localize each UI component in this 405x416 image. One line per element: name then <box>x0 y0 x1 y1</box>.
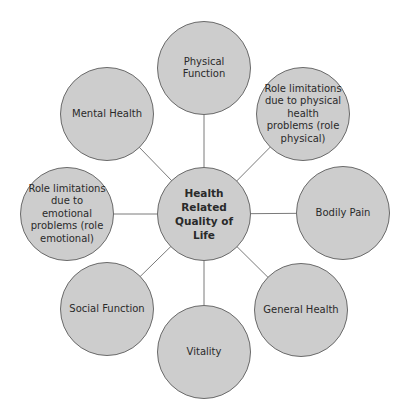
center-label: Health Related Quality of Life <box>164 186 244 242</box>
node-general-health: General Health <box>254 263 348 357</box>
node-role-emotional: Role limitations due to emotional proble… <box>20 167 114 261</box>
node-bodily-pain: Bodily Pain <box>296 166 390 260</box>
node-physical-function: Physical Function <box>157 21 251 115</box>
node-label: Social Function <box>69 303 144 316</box>
node-social-function: Social Function <box>60 262 154 356</box>
node-label: Bodily Pain <box>316 207 371 220</box>
node-role-physical: Role limitations due to physical health … <box>256 67 350 161</box>
node-mental-health: Mental Health <box>60 67 154 161</box>
node-label: Physical Function <box>164 56 244 81</box>
hrqol-diagram: Physical Function Role limitations due t… <box>0 0 405 416</box>
node-label: General Health <box>263 304 338 317</box>
node-label: Role limitations due to physical health … <box>263 83 343 146</box>
center-node-hrqol: Health Related Quality of Life <box>157 167 251 261</box>
node-vitality: Vitality <box>157 305 251 399</box>
node-label: Vitality <box>187 346 222 359</box>
node-label: Role limitations due to emotional proble… <box>27 183 107 246</box>
node-label: Mental Health <box>72 108 142 121</box>
